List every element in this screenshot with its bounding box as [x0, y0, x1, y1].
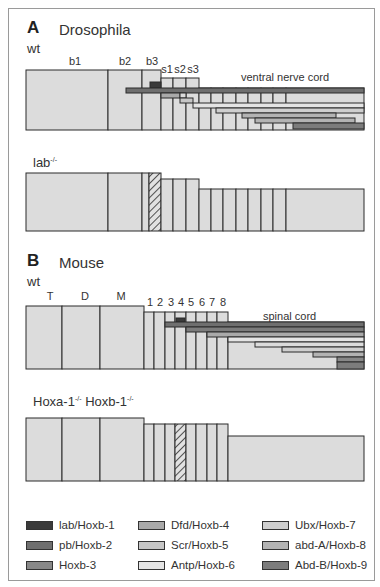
legend-swatch-icon: [138, 541, 165, 550]
legend-item-antp-hoxb6: Antp/Hoxb-6: [138, 558, 235, 572]
legend-item-pb-hoxb2: pb/Hoxb-2: [26, 538, 112, 552]
legend-label: Ubx/Hoxb-7: [295, 519, 356, 531]
legend-swatch-icon: [26, 521, 53, 530]
legend-label: Antp/Hoxb-6: [171, 559, 235, 571]
deleted-segment-hatch: [149, 173, 161, 231]
legend-item-dfd-hoxb4: Dfd/Hoxb-4: [138, 518, 229, 532]
legend-label: Dfd/Hoxb-4: [171, 519, 229, 531]
legend-swatch-icon: [138, 561, 165, 570]
legend-item-abda-hoxb8: abd-A/Hoxb-8: [262, 538, 366, 552]
legend-swatch-icon: [26, 541, 53, 550]
legend-item-ubx-hoxb7: Ubx/Hoxb-7: [262, 518, 356, 532]
legend-item-lab-hoxb1: lab/Hoxb-1: [26, 518, 115, 532]
legend-swatch-icon: [26, 561, 53, 570]
legend-swatch-icon: [262, 561, 289, 570]
legend-label: Abd-B/Hoxb-9: [295, 559, 367, 571]
legend-label: Hoxb-3: [59, 559, 96, 571]
legend-label: Scr/Hoxb-5: [171, 539, 229, 551]
legend-item-hoxb3: Hoxb-3: [26, 558, 96, 572]
legend-swatch-icon: [138, 521, 165, 530]
deleted-r4-hatch: [175, 424, 186, 481]
legend-item-abdb-hoxb9: Abd-B/Hoxb-9: [262, 558, 367, 572]
legend: lab/Hoxb-1 pb/Hoxb-2 Hoxb-3 Dfd/Hoxb-4 S…: [26, 518, 366, 578]
mouse-double-mutant-segments: [26, 418, 364, 481]
legend-label: pb/Hoxb-2: [59, 539, 112, 551]
hox-expression-diagram: [0, 0, 380, 587]
legend-label: lab/Hoxb-1: [59, 519, 115, 531]
legend-label: abd-A/Hoxb-8: [295, 539, 366, 551]
legend-swatch-icon: [262, 521, 289, 530]
legend-swatch-icon: [262, 541, 289, 550]
drosophila-lab-mutant-segments: [26, 173, 364, 231]
legend-item-scr-hoxb5: Scr/Hoxb-5: [138, 538, 229, 552]
